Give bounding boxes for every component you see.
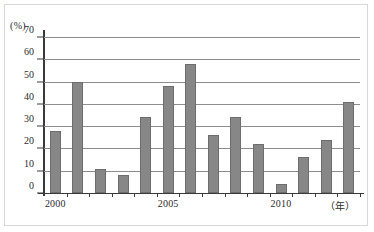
x-axis-tick-mark bbox=[360, 193, 361, 197]
y-axis-tick-label: 10 bbox=[24, 159, 34, 169]
x-axis-tick-mark bbox=[89, 193, 90, 197]
x-axis-tick-mark bbox=[315, 193, 316, 197]
y-axis-tick-label: 0 bbox=[29, 181, 34, 191]
x-axis-tick-label: 2000 bbox=[45, 198, 66, 209]
x-axis-tick-mark bbox=[337, 193, 338, 197]
bar bbox=[163, 86, 174, 193]
y-axis-tick-mark bbox=[37, 81, 43, 82]
bar bbox=[276, 184, 287, 193]
x-axis-tick-mark bbox=[134, 193, 135, 197]
x-axis-tick-label: 2010 bbox=[271, 198, 292, 209]
x-axis-tick-label: 2005 bbox=[158, 198, 179, 209]
bar bbox=[118, 175, 129, 193]
bar-series bbox=[44, 37, 360, 193]
x-axis-tick-mark bbox=[225, 193, 226, 197]
x-axis-tick-mark bbox=[292, 193, 293, 197]
bar bbox=[140, 117, 151, 193]
bar bbox=[50, 131, 61, 193]
x-axis-tick-mark bbox=[202, 193, 203, 197]
y-axis-tick-label: 50 bbox=[24, 70, 34, 80]
x-axis-tick-marks bbox=[44, 193, 360, 197]
x-axis-tick-mark bbox=[270, 193, 271, 197]
bar bbox=[72, 82, 83, 193]
bar bbox=[343, 102, 354, 193]
bar bbox=[298, 157, 309, 193]
bar bbox=[230, 117, 241, 193]
x-axis-tick-mark bbox=[179, 193, 180, 197]
x-axis-title: （年） bbox=[325, 198, 355, 213]
y-axis-tick-mark bbox=[37, 59, 43, 60]
y-axis-tick-label: 40 bbox=[24, 92, 34, 102]
x-axis-tick-mark bbox=[67, 193, 68, 197]
bar bbox=[321, 140, 332, 193]
y-axis-tick-mark bbox=[37, 126, 43, 127]
bar bbox=[95, 169, 106, 194]
bar bbox=[185, 64, 196, 193]
bar bbox=[253, 144, 264, 193]
x-axis-tick-mark bbox=[112, 193, 113, 197]
y-axis-tick-mark bbox=[37, 170, 43, 171]
y-axis-tick-label: 30 bbox=[24, 114, 34, 124]
x-axis-tick-mark bbox=[247, 193, 248, 197]
y-axis-tick-mark bbox=[37, 37, 43, 38]
y-axis-tick-label: 60 bbox=[24, 47, 34, 57]
x-axis-tick-labels: 200020052010（年） bbox=[0, 198, 374, 216]
x-axis-tick-mark bbox=[157, 193, 158, 197]
y-axis-tick-label: 20 bbox=[24, 136, 34, 146]
y-axis-tick-mark bbox=[37, 103, 43, 104]
bar bbox=[208, 135, 219, 193]
y-axis-tick-label: 70 bbox=[24, 25, 34, 35]
bar-chart: (%) 010203040506070 200020052010（年） bbox=[0, 0, 374, 232]
y-axis-tick-mark bbox=[37, 148, 43, 149]
